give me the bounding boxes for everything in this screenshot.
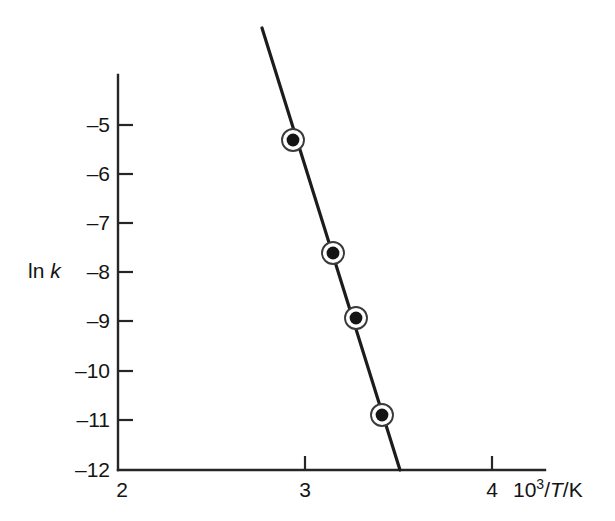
data-point-3 (345, 307, 367, 329)
y-tick-marks (118, 125, 133, 420)
y-tick-label-minus12: –12 (75, 458, 110, 481)
x-tick-labels: 2 3 4 (116, 478, 498, 501)
x-tick-label-2: 2 (116, 478, 128, 501)
y-axis-title: ln k (28, 259, 62, 282)
y-tick-label-minus8: –8 (87, 260, 110, 283)
y-tick-label-minus7: –7 (87, 211, 110, 234)
data-point-markers (282, 129, 393, 426)
axis-group (118, 75, 545, 470)
data-point-2 (322, 242, 344, 264)
y-tick-label-minus10: –10 (75, 359, 110, 382)
arrhenius-plot-figure: –5 –6 –7 –8 –9 –10 –11 –12 2 3 4 ln k (0, 0, 615, 521)
data-point-1 (282, 129, 304, 151)
data-point-4 (371, 404, 393, 426)
y-tick-label-minus9: –9 (87, 309, 110, 332)
x-tick-label-4: 4 (486, 478, 498, 501)
y-axis-title-italic: k (50, 259, 62, 282)
y-tick-labels: –5 –6 –7 –8 –9 –10 –11 –12 (75, 113, 110, 481)
svg-text:ln k: ln k (28, 259, 62, 282)
y-tick-label-minus6: –6 (87, 162, 110, 185)
x-axis-title: 103/T/K (513, 476, 583, 501)
y-axis-title-plain: ln (28, 259, 50, 282)
svg-text:103/T/K: 103/T/K (513, 476, 583, 501)
y-tick-label-minus5: –5 (87, 113, 110, 136)
y-tick-label-minus11: –11 (77, 408, 110, 431)
x-tick-label-3: 3 (299, 478, 311, 501)
x-axis-title-exponent: 3 (536, 476, 544, 492)
x-axis-title-tail: /K (563, 478, 583, 501)
x-axis-title-base: 10 (513, 478, 536, 501)
chart-canvas: –5 –6 –7 –8 –9 –10 –11 –12 2 3 4 ln k (0, 0, 615, 521)
